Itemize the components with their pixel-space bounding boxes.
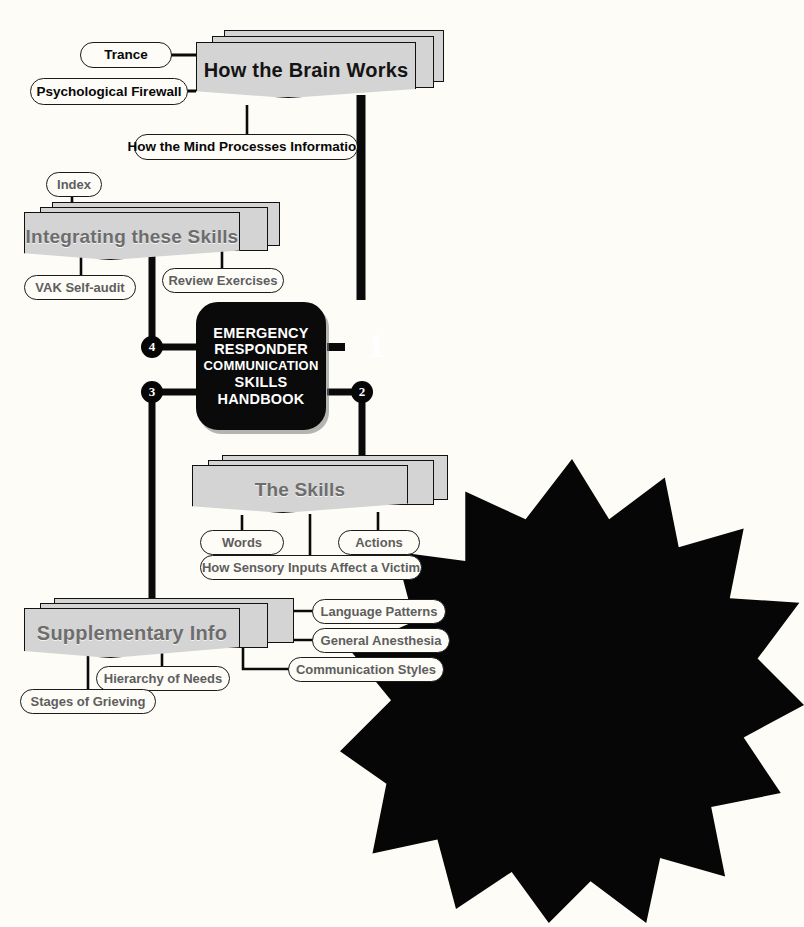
hub-line-5: HANDBOOK [218,391,305,408]
branch-label: The Skills [255,480,346,499]
leaf-label: Index [57,178,91,191]
leaf-how-the-mind-processes-information[interactable]: How the Mind Processes Information [134,134,358,160]
leaf-label: Language Patterns [320,605,437,618]
branch-supplementary-info[interactable]: Supplementary Info [24,598,292,660]
leaf-communication-styles[interactable]: Communication Styles [288,657,444,682]
marker-1-label: 1 [340,310,412,384]
branch-front-integrating[interactable]: Integrating these Skills [24,212,240,260]
leaf-label: Actions [355,536,403,549]
branch-label: How the Brain Works [204,60,409,80]
branch-label: Integrating these Skills [26,227,239,246]
leaf-stages-of-grieving[interactable]: Stages of Grieving [20,689,156,714]
leaf-language-patterns[interactable]: Language Patterns [312,599,446,624]
marker-1-starburst[interactable]: 1 [340,310,412,384]
leaf-index[interactable]: Index [46,172,102,197]
leaf-label: Communication Styles [296,663,436,676]
leaf-label: Words [222,536,262,549]
leaf-words[interactable]: Words [200,530,284,555]
branch-how-the-brain-works[interactable]: How the Brain Works [196,30,448,100]
leaf-label: Stages of Grieving [31,695,146,708]
leaf-label: Review Exercises [168,274,277,287]
leaf-trance[interactable]: Trance [80,42,172,68]
hub-line-4: SKILLS [235,374,288,391]
leaf-review-exercises[interactable]: Review Exercises [162,268,284,293]
marker-2-label: 2 [359,384,366,400]
leaf-label: Trance [104,48,148,62]
leaf-label: General Anesthesia [321,634,442,647]
leaf-actions[interactable]: Actions [338,530,420,555]
marker-4-circle[interactable]: 4 [141,336,163,358]
marker-2-circle[interactable]: 2 [351,381,373,403]
hub-line-1: EMERGENCY [213,325,308,342]
leaf-label: Psychological Firewall [37,85,182,99]
marker-4-label: 4 [149,339,156,355]
hub-line-2: RESPONDER [214,341,308,358]
branch-label: Supplementary Info [37,623,227,643]
leaf-label: VAK Self-audit [35,281,124,294]
leaf-label: Hierarchy of Needs [104,672,223,685]
branch-front-supplementary[interactable]: Supplementary Info [24,608,240,658]
marker-3-label: 3 [149,384,156,400]
branch-front-brain[interactable]: How the Brain Works [196,42,416,98]
leaf-hierarchy-of-needs[interactable]: Hierarchy of Needs [96,666,230,691]
center-topic-box[interactable]: EMERGENCY RESPONDER COMMUNICATION SKILLS… [196,302,326,430]
leaf-label: How Sensory Inputs Affect a Victim [202,561,420,574]
leaf-how-sensory-inputs-affect-a-victim[interactable]: How Sensory Inputs Affect a Victim [200,555,422,580]
leaf-label: How the Mind Processes Information [127,140,364,154]
marker-3-circle[interactable]: 3 [141,381,163,403]
leaf-psychological-firewall[interactable]: Psychological Firewall [30,78,188,105]
leaf-general-anesthesia[interactable]: General Anesthesia [312,628,450,653]
leaf-vak-self-audit[interactable]: VAK Self-audit [24,275,136,300]
hub-line-3: COMMUNICATION [203,358,318,375]
branch-integrating-these-skills[interactable]: Integrating these Skills [24,202,292,264]
